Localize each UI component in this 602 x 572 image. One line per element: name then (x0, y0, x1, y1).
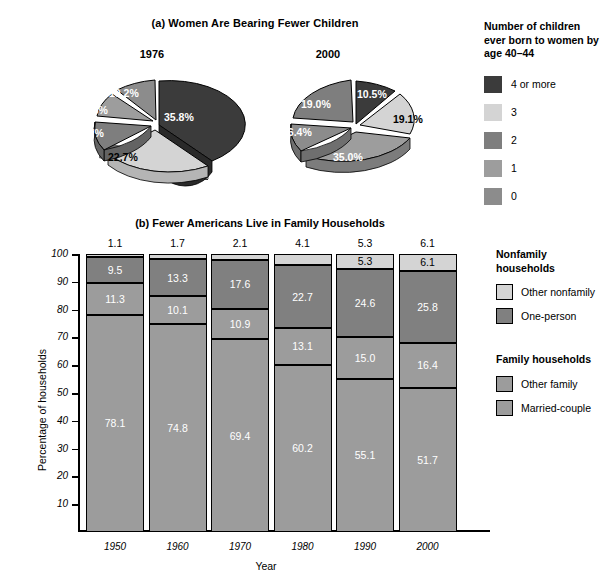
x-tick-label-1980: 1980 (274, 541, 332, 552)
bar-segment-one-person[interactable]: 22.7 (274, 265, 332, 328)
bar-segment-other-nonfamily[interactable] (211, 254, 269, 260)
bar-legend-label-3: Married-couple (521, 402, 591, 414)
bar-legend-label-2: Other family (521, 378, 578, 390)
bar-1990[interactable]: 55.115.024.65.3 (336, 254, 394, 532)
y-tick-label: 70 (38, 331, 68, 342)
bar-top-label-2000: 6.1 (399, 237, 457, 249)
pie-legend: Number of children ever born to women by… (484, 20, 602, 215)
bar-top-label-1960: 1.7 (149, 237, 207, 249)
panel-b-title: (b) Fewer Americans Live in Family House… (60, 217, 460, 229)
pie-2000: 10.5% 19.1% 35.0% 16.4% 19.0% (250, 68, 460, 198)
x-tick-label-1990: 1990 (336, 541, 394, 552)
swatch-4-or-more (484, 76, 502, 93)
bar-legend-item-other-nonfamily[interactable]: Other nonfamily (496, 283, 602, 301)
bar-legend-label-1: One-person (521, 310, 576, 322)
y-tick-label: 40 (38, 415, 68, 426)
bar-segment-married-couple[interactable]: 51.7 (399, 388, 457, 532)
bar-top-label-1950: 1.1 (86, 237, 144, 249)
bar-1950[interactable]: 78.111.39.5 (86, 254, 144, 532)
swatch-3 (484, 104, 502, 121)
pie-legend-label-4: 0 (511, 190, 517, 202)
bar-segment-married-couple[interactable]: 55.1 (336, 379, 394, 532)
bar-segment-one-person[interactable]: 24.6 (336, 269, 394, 337)
y-tick-label: 90 (38, 276, 68, 287)
y-tick-label: 10 (38, 498, 68, 509)
bar-legend-label-0: Other nonfamily (521, 286, 595, 298)
bar-segment-one-person[interactable]: 17.6 (211, 260, 269, 309)
y-tick-label: 60 (38, 359, 68, 370)
x-tick-label-1950: 1950 (86, 541, 144, 552)
swatch-2 (484, 132, 502, 149)
bar-segment-other-nonfamily[interactable] (274, 254, 332, 265)
swatch-one-person (496, 308, 513, 324)
bar-legend-item-one-person[interactable]: One-person (496, 307, 602, 325)
bar-segment-married-couple[interactable]: 69.4 (211, 339, 269, 532)
bar-segment-other-nonfamily[interactable]: 6.1 (399, 254, 457, 271)
bar-top-label-1980: 4.1 (274, 237, 332, 249)
pie-chart-panel: (a) Women Are Bearing Fewer Children 197… (0, 0, 602, 208)
pie-legend-label-0: 4 or more (511, 78, 556, 90)
pie-legend-item-1[interactable]: 1 (484, 159, 602, 178)
plot-area: 78.111.39.51.1195074.810.113.31.7196069.… (78, 254, 454, 532)
swatch-other-family (496, 376, 513, 392)
y-tick-label: 100 (38, 248, 68, 259)
bar-segment-other-nonfamily[interactable] (149, 254, 207, 259)
bar-segment-one-person[interactable]: 9.5 (86, 257, 144, 283)
bar-segment-one-person[interactable]: 13.3 (149, 259, 207, 296)
x-tick-label-1970: 1970 (211, 541, 269, 552)
bar-legend-heading-nonfamily: Nonfamily households (496, 248, 602, 275)
y-tick-label: 50 (38, 387, 68, 398)
bar-segment-other-family[interactable]: 15.0 (336, 337, 394, 379)
pie-2000-svg (250, 68, 460, 198)
bar-segment-married-couple[interactable]: 60.2 (274, 365, 332, 532)
pie-legend-item-3[interactable]: 3 (484, 103, 602, 122)
pie-legend-label-3: 1 (511, 162, 517, 174)
bar-legend: Nonfamily households Other nonfamily One… (496, 248, 602, 423)
bar-chart-panel: (b) Fewer Americans Live in Family House… (0, 208, 602, 572)
pie-1976-svg (52, 68, 262, 198)
bar-segment-other-family[interactable]: 10.9 (211, 309, 269, 339)
swatch-1 (484, 160, 502, 177)
pie-title-2000: 2000 (288, 48, 368, 60)
pie-legend-label-2: 2 (511, 134, 517, 146)
panel-a-title: (a) Women Are Bearing Fewer Children (85, 17, 425, 29)
pie-legend-title: Number of children ever born to women by… (484, 20, 602, 61)
bar-segment-one-person[interactable]: 25.8 (399, 271, 457, 343)
swatch-0 (484, 188, 502, 205)
bar-top-label-1970: 2.1 (211, 237, 269, 249)
bar-2000[interactable]: 51.716.425.86.1 (399, 254, 457, 532)
pie-legend-item-2[interactable]: 2 (484, 131, 602, 150)
bar-1970[interactable]: 69.410.917.6 (211, 254, 269, 532)
pie-1976: 35.8% 22.7% 21.7% 9.6% 10.2% (52, 68, 262, 198)
y-tick-label: 30 (38, 443, 68, 454)
pie-legend-item-4-or-more[interactable]: 4 or more (484, 75, 602, 94)
bar-segment-married-couple[interactable]: 78.1 (86, 315, 144, 532)
bar-1980[interactable]: 60.213.122.7 (274, 254, 332, 532)
bar-segment-other-family[interactable]: 10.1 (149, 296, 207, 324)
bar-legend-item-married-couple[interactable]: Married-couple (496, 399, 602, 417)
bar-segment-other-nonfamily[interactable] (86, 254, 144, 257)
bar-1960[interactable]: 74.810.113.3 (149, 254, 207, 532)
bar-top-label-1990: 5.3 (336, 237, 394, 249)
pie-title-1976: 1976 (112, 48, 192, 60)
x-axis-title: Year (78, 560, 454, 572)
y-tick-label: 20 (38, 470, 68, 481)
x-tick-label-2000: 2000 (399, 541, 457, 552)
y-axis-title-holder: Percentage of households (10, 254, 30, 532)
pie-legend-label-1: 3 (511, 106, 517, 118)
swatch-other-nonfamily (496, 284, 513, 300)
swatch-married-couple (496, 400, 513, 416)
bar-legend-heading-family: Family households (496, 353, 602, 367)
bar-legend-item-other-family[interactable]: Other family (496, 375, 602, 393)
pie-legend-item-0[interactable]: 0 (484, 187, 602, 206)
bar-segment-other-family[interactable]: 13.1 (274, 328, 332, 364)
bar-segment-other-family[interactable]: 11.3 (86, 283, 144, 314)
bar-segment-married-couple[interactable]: 74.8 (149, 324, 207, 532)
bar-segment-other-nonfamily[interactable]: 5.3 (336, 254, 394, 269)
bar-segment-other-family[interactable]: 16.4 (399, 343, 457, 389)
y-tick-label: 80 (38, 304, 68, 315)
x-tick-label-1960: 1960 (149, 541, 207, 552)
